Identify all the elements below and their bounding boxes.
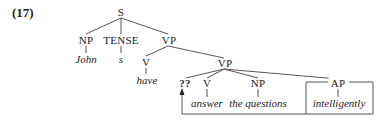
node-v-have: V	[142, 56, 150, 68]
node-s: S	[118, 6, 124, 18]
edge-s-np	[86, 18, 121, 34]
node-gap: ??	[179, 77, 191, 89]
node-vp-lower: VP	[218, 57, 233, 69]
word-s: s	[119, 53, 123, 65]
edge-s-vp	[121, 18, 168, 34]
word-the-questions: the questions	[229, 97, 287, 109]
word-answer: answer	[191, 97, 223, 109]
word-have: have	[137, 74, 158, 86]
node-np-object: NP	[251, 77, 266, 89]
word-intelligently: intelligently	[313, 97, 366, 109]
edge-vp-vp	[168, 46, 224, 58]
word-john: John	[75, 53, 96, 65]
node-np-subject: NP	[79, 34, 94, 46]
node-ap: AP	[329, 77, 348, 89]
arrow-head-icon	[180, 88, 185, 95]
node-vp-upper: VP	[162, 34, 177, 46]
node-tense: TENSE	[103, 34, 139, 46]
node-v-answer: V	[203, 77, 211, 89]
edge-vp-v	[146, 46, 168, 56]
